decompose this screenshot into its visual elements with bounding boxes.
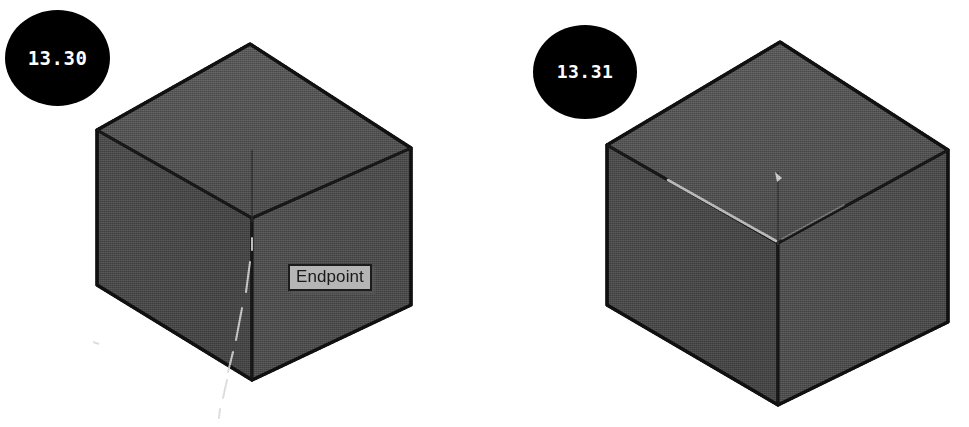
- figure-13-30: Endpoint 13.30: [0, 0, 485, 427]
- stray-tick-mark: [93, 342, 99, 344]
- snap-tooltip-endpoint[interactable]: Endpoint: [288, 264, 372, 291]
- figure-13-31: 13.31: [484, 0, 969, 427]
- step-badge-label: 13.31: [557, 63, 614, 81]
- step-badge-13-31: 13.31: [533, 25, 637, 119]
- step-badge-13-30: 13.30: [5, 10, 110, 106]
- step-badge-label: 13.30: [28, 49, 88, 68]
- figure-page: Endpoint 13.30: [0, 0, 969, 427]
